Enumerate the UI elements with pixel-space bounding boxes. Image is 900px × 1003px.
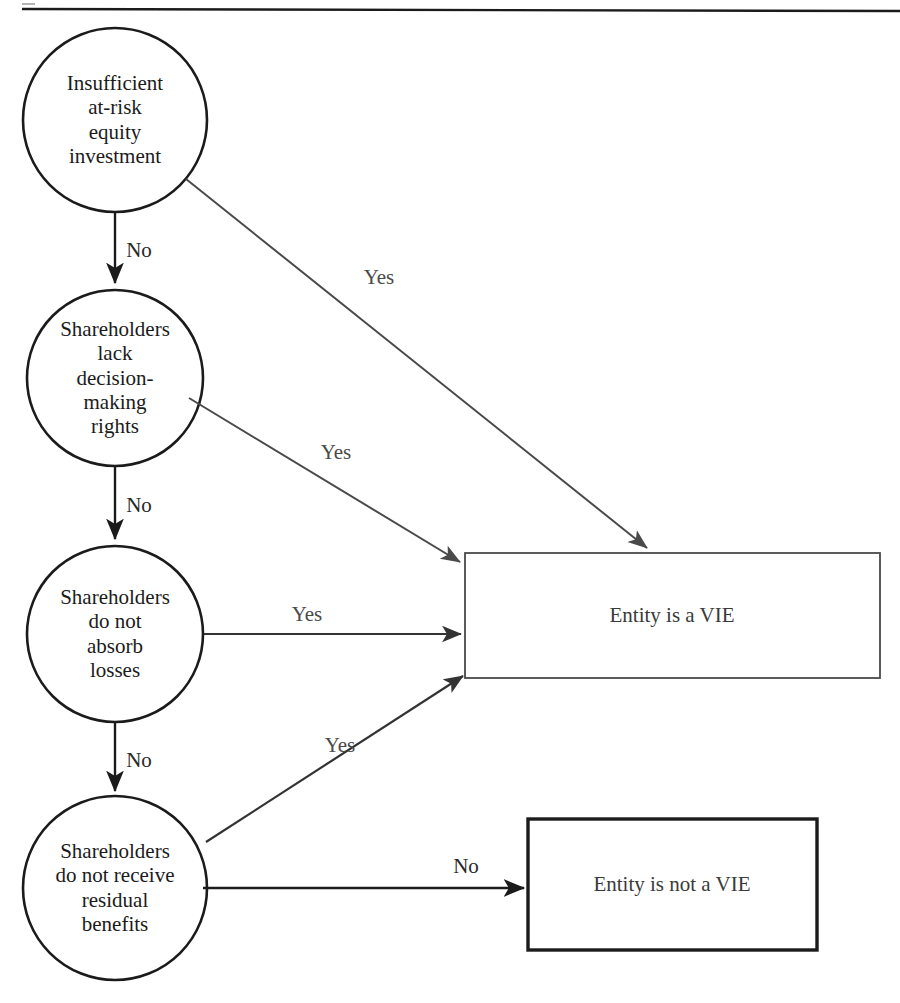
decision-circle-no-decision-rights[interactable] xyxy=(27,290,203,466)
decision-circle-no-residual-benefits[interactable] xyxy=(23,796,207,980)
page-header-rule xyxy=(22,4,900,11)
outcome-box-entity-is-vie[interactable] xyxy=(465,553,880,678)
figure-page: Insufficient at-risk equity investment S… xyxy=(0,0,900,1003)
connector-yes-1 xyxy=(186,179,647,548)
flowchart-canvas xyxy=(0,0,900,1003)
connector-yes-4 xyxy=(206,676,463,842)
decision-circle-insufficient-equity[interactable] xyxy=(23,28,207,212)
decision-circle-no-absorb-losses[interactable] xyxy=(27,546,203,722)
connector-yes-2 xyxy=(189,398,460,562)
outcome-box-entity-is-not-vie[interactable] xyxy=(528,819,817,950)
